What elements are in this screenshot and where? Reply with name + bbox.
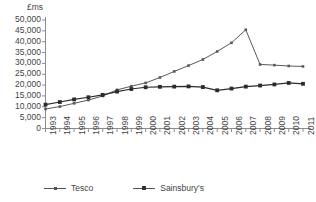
x-axis-tick-labels: 1993199419951996199719981999200020012002…: [0, 0, 316, 60]
data-point-marker: [215, 88, 219, 92]
legend-item-tesco: Tesco: [44, 183, 93, 193]
data-point-marker: [115, 90, 119, 94]
data-point-marker: [201, 85, 205, 89]
x-tick-label: 2008: [264, 116, 273, 135]
data-point-marker: [258, 84, 262, 88]
data-point-marker: [144, 85, 148, 89]
data-point-marker: [273, 64, 276, 67]
data-point-marker: [44, 108, 47, 111]
data-point-marker: [87, 95, 91, 99]
x-tick-label: 1997: [106, 116, 115, 135]
data-point-marker: [187, 64, 190, 67]
legend-label-tesco: Tesco: [71, 183, 93, 193]
x-tick-label: 2001: [163, 116, 172, 135]
data-point-marker: [158, 85, 162, 89]
x-tick-label: 2003: [192, 116, 201, 135]
x-tick-label: 2000: [149, 116, 158, 135]
data-point-marker: [44, 103, 48, 107]
x-tick-label: 1993: [49, 116, 58, 135]
x-tick-label: 1995: [78, 116, 87, 135]
data-point-marker: [302, 65, 305, 68]
data-point-marker: [59, 105, 62, 108]
line-chart: £ms 05,00010,00015,00020,00025,00030,000…: [0, 0, 316, 202]
data-point-marker: [301, 82, 305, 86]
data-point-marker: [87, 99, 90, 102]
x-tick-label: 2004: [206, 116, 215, 135]
x-tick-label: 2010: [292, 116, 301, 135]
data-point-marker: [287, 65, 290, 68]
data-point-marker: [259, 63, 262, 66]
data-point-marker: [272, 83, 276, 87]
x-tick-label: 2011: [307, 116, 316, 134]
x-tick-label: 1996: [92, 116, 101, 135]
x-tick-label: 1998: [121, 116, 130, 135]
data-point-marker: [144, 82, 147, 85]
legend-marker-sainsburys: [133, 184, 155, 193]
data-point-marker: [73, 102, 76, 105]
x-tick-label: 2007: [249, 116, 258, 135]
x-tick-label: 2006: [235, 116, 244, 135]
x-tick-label: 2009: [278, 116, 287, 135]
x-tick-label: 2002: [178, 116, 187, 135]
chart-legend: Tesco Sainsbury's: [44, 180, 204, 196]
x-tick-label: 2005: [221, 116, 230, 135]
x-tick-label: 1994: [63, 116, 72, 135]
legend-marker-tesco: [44, 184, 66, 193]
data-point-marker: [173, 70, 176, 73]
data-point-marker: [72, 98, 76, 102]
data-point-marker: [172, 85, 176, 89]
data-point-marker: [187, 85, 191, 89]
x-tick-label: 1999: [135, 116, 144, 135]
data-point-marker: [58, 100, 62, 104]
data-point-marker: [287, 81, 291, 85]
legend-label-sainsburys: Sainsbury's: [160, 183, 204, 193]
data-point-marker: [101, 93, 105, 97]
legend-item-sainsburys: Sainsbury's: [133, 183, 204, 193]
data-point-marker: [230, 87, 234, 91]
data-point-marker: [159, 76, 162, 79]
data-point-marker: [244, 85, 248, 89]
data-point-marker: [130, 85, 133, 88]
data-point-marker: [129, 87, 133, 91]
